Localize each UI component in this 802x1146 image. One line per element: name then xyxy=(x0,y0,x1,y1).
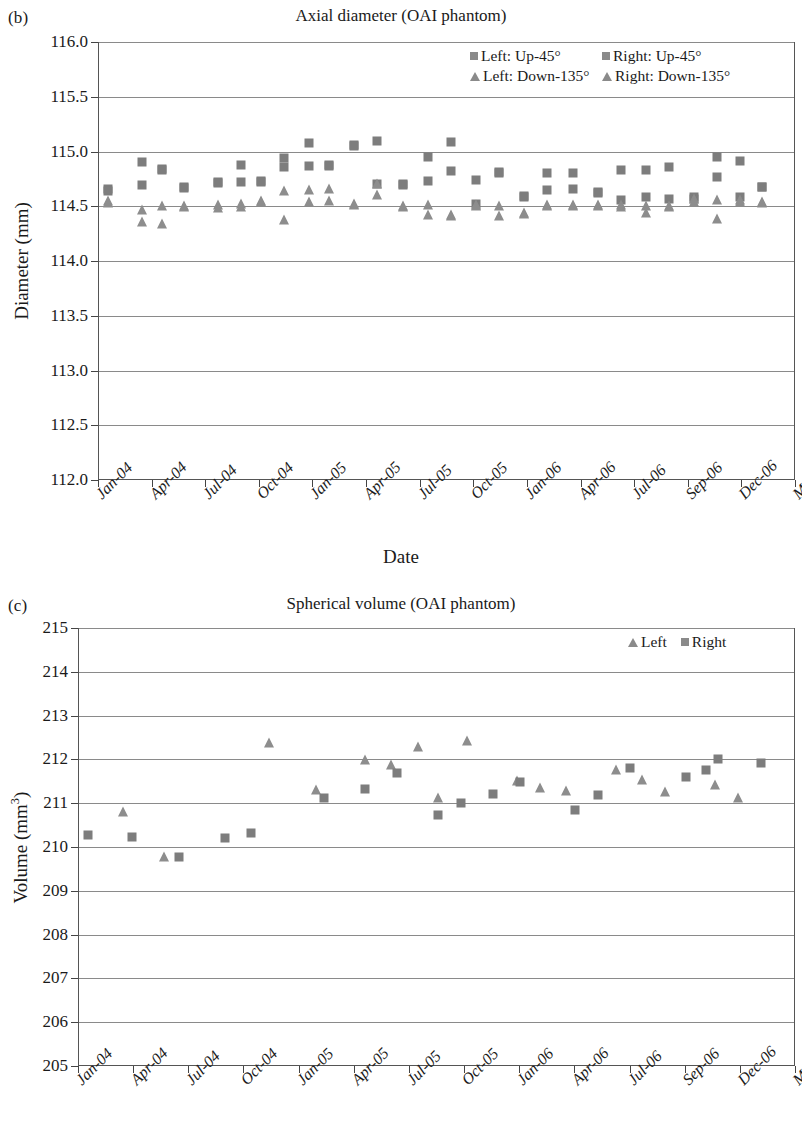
data-point xyxy=(519,208,529,218)
data-point xyxy=(137,158,146,167)
gridline xyxy=(79,759,794,760)
legend-axial-diameter: Left: Up-45° Right: Up-45° Left: Down-13… xyxy=(470,46,730,86)
gridline xyxy=(99,425,794,426)
data-point xyxy=(757,197,767,207)
legend-item-left-up45: Left: Up-45° xyxy=(470,47,602,65)
gridline xyxy=(79,716,794,717)
y-axis-tick-label: 115.0 xyxy=(0,142,88,162)
data-point xyxy=(568,169,577,178)
data-point xyxy=(137,204,147,214)
y-axis-tick-label: 209 xyxy=(0,881,68,901)
triangle-marker-icon xyxy=(628,638,638,647)
data-point xyxy=(689,196,699,206)
y-axis-tick-label: 114.0 xyxy=(0,251,88,271)
data-point xyxy=(398,202,408,212)
data-point xyxy=(446,211,456,221)
x-axis-title-date: Date xyxy=(0,546,802,568)
data-point xyxy=(424,177,433,186)
data-point xyxy=(84,830,93,839)
y-axis-tick-mark xyxy=(91,206,98,207)
data-point xyxy=(515,778,524,787)
data-point xyxy=(373,136,382,145)
triangle-marker-icon xyxy=(602,72,612,81)
y-axis-tick-label: 210 xyxy=(0,837,68,857)
data-point xyxy=(386,759,396,769)
data-point xyxy=(423,200,433,210)
data-point xyxy=(247,828,256,837)
data-point xyxy=(660,787,670,797)
data-point xyxy=(214,179,223,188)
data-point xyxy=(664,202,674,212)
y-axis-tick-mark xyxy=(91,261,98,262)
data-point xyxy=(712,194,722,204)
data-point xyxy=(372,179,382,189)
data-point xyxy=(157,218,167,228)
data-point xyxy=(256,178,265,187)
data-point xyxy=(713,152,722,161)
gridline xyxy=(79,672,794,673)
legend-item-left: Left xyxy=(628,633,667,651)
data-point xyxy=(494,169,503,178)
data-point xyxy=(372,190,382,200)
gridline xyxy=(99,152,794,153)
data-point xyxy=(137,181,146,190)
data-point xyxy=(520,192,529,201)
gridline xyxy=(99,371,794,372)
gridline xyxy=(79,935,794,936)
data-point xyxy=(561,785,571,795)
data-point xyxy=(642,166,651,175)
data-point xyxy=(570,805,579,814)
legend-label: Right: Down-135° xyxy=(615,67,730,85)
data-point xyxy=(264,737,274,747)
data-point xyxy=(568,201,578,211)
data-point xyxy=(433,811,442,820)
y-axis-tick-label: 112.5 xyxy=(0,415,88,435)
data-point xyxy=(735,196,745,206)
data-point xyxy=(637,775,647,785)
data-point xyxy=(713,755,722,764)
gridline xyxy=(79,847,794,848)
legend-label: Left: Down-135° xyxy=(483,67,590,85)
data-point xyxy=(324,161,333,170)
y-axis-tick-mark xyxy=(71,978,78,979)
data-point xyxy=(103,197,113,207)
data-point xyxy=(213,203,223,213)
data-point xyxy=(713,172,722,181)
data-point xyxy=(279,185,289,195)
gridline xyxy=(99,42,794,43)
data-point xyxy=(611,765,621,775)
triangle-marker-icon xyxy=(470,72,480,81)
data-point xyxy=(159,851,169,861)
y-axis-tick-mark xyxy=(91,425,98,426)
data-point xyxy=(594,791,603,800)
y-axis-tick-mark xyxy=(71,1066,78,1067)
data-point xyxy=(664,162,673,171)
y-axis-tick-label: 116.0 xyxy=(0,32,88,52)
data-point xyxy=(279,154,288,163)
y-axis-tick-label: 215 xyxy=(0,618,68,638)
legend-label: Right xyxy=(692,633,726,651)
data-point xyxy=(733,792,743,802)
data-point xyxy=(735,157,744,166)
data-point xyxy=(710,779,720,789)
gridline xyxy=(79,891,794,892)
data-point xyxy=(179,201,189,211)
y-axis-tick-label: 206 xyxy=(0,1012,68,1032)
y-axis-tick-mark xyxy=(71,672,78,673)
data-point xyxy=(137,216,147,226)
data-point xyxy=(157,201,167,211)
data-point xyxy=(256,196,266,206)
y-axis-tick-label: 205 xyxy=(0,1056,68,1076)
data-point xyxy=(462,736,472,746)
data-point xyxy=(543,169,552,178)
data-point xyxy=(702,766,711,775)
data-point xyxy=(118,806,128,816)
y-axis-tick-mark xyxy=(71,935,78,936)
data-point xyxy=(594,189,603,198)
data-point xyxy=(349,200,359,210)
data-point xyxy=(489,789,498,798)
data-point xyxy=(494,201,504,211)
square-marker-icon xyxy=(602,52,610,60)
data-point xyxy=(180,183,189,192)
data-point xyxy=(616,202,626,212)
